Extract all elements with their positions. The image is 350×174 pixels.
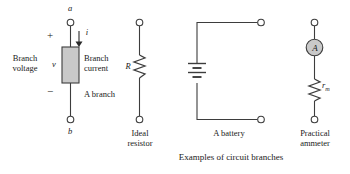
battery-bottom-wire xyxy=(197,83,258,120)
practical-ammeter-caption: Practical ammeter xyxy=(291,128,339,148)
resistor-zigzag xyxy=(134,55,145,78)
ammeter-resistor-zigzag xyxy=(309,79,320,101)
battery-terminal-bottom xyxy=(258,116,265,123)
circuit-branches-figure: a b + − v i Branch voltage Branch curren… xyxy=(0,0,350,174)
resistor-terminal-bottom xyxy=(136,116,143,123)
branch-voltage-label: Branch voltage xyxy=(2,53,48,73)
ammeter-resistance-label: rm xyxy=(322,80,342,94)
battery-terminal-top xyxy=(258,19,265,26)
ideal-resistor-symbol xyxy=(134,19,145,123)
ammeter-resistance-subscript: m xyxy=(325,85,329,92)
polarity-minus-label: − xyxy=(44,86,56,96)
polarity-plus-label: + xyxy=(44,30,56,40)
terminal-node-b xyxy=(67,116,74,123)
battery-symbol xyxy=(188,19,264,123)
battery-top-wire xyxy=(197,23,258,64)
ammeter-terminal-top xyxy=(311,19,318,26)
figure-caption: Examples of circuit branches xyxy=(168,152,294,162)
branch-element-body xyxy=(62,47,79,83)
node-label-b: b xyxy=(61,126,79,136)
ammeter-letter-a: A xyxy=(308,43,322,53)
branch-voltage-symbol: v xyxy=(48,59,60,69)
generic-branch-symbol xyxy=(62,19,79,123)
terminal-node-a xyxy=(67,19,74,26)
resistor-symbol-label: R xyxy=(122,61,134,71)
battery-caption: A battery xyxy=(199,128,259,138)
ammeter-terminal-bottom xyxy=(311,116,318,123)
practical-ammeter-symbol xyxy=(306,19,323,123)
resistor-terminal-top xyxy=(136,19,143,26)
ideal-resistor-caption: Ideal resistor xyxy=(116,128,164,148)
node-label-a: a xyxy=(61,3,79,13)
branch-current-symbol: i xyxy=(81,27,93,37)
a-branch-label: A branch xyxy=(84,89,130,99)
